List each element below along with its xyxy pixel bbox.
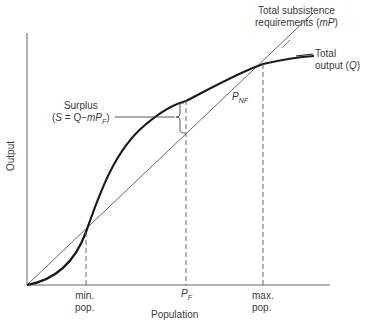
output-label: Total output (Q) — [315, 48, 360, 72]
subsistence-label-line2: requirements (mP) — [255, 17, 338, 29]
pf-label: PF — [181, 288, 192, 304]
diagram-canvas — [0, 0, 369, 328]
x-axis-label: Population — [151, 309, 198, 321]
output-label-line1: Total — [315, 48, 360, 60]
surplus-label-line2: (S = Q−mPF) — [52, 112, 110, 128]
min-pop-label-line2: pop. — [75, 302, 94, 314]
min-pop-label-line1: min. — [75, 290, 94, 302]
output-label-line2: output (Q) — [315, 60, 360, 72]
surplus-label-line1: Surplus — [52, 100, 110, 112]
subsistence-line — [27, 13, 313, 285]
min-pop-label: min. pop. — [75, 290, 94, 314]
subsistence-label: Total subsistence requirements (mP) — [255, 5, 338, 29]
surplus-brace — [176, 103, 185, 133]
pnf-label: PNF — [232, 91, 248, 107]
max-pop-label-line2: pop. — [252, 302, 274, 314]
max-pop-label-line1: max. — [252, 290, 274, 302]
max-pop-label: max. pop. — [252, 290, 274, 314]
y-axis-label: Output — [5, 141, 17, 171]
subsistence-label-line1: Total subsistence — [255, 5, 338, 17]
output-curve — [27, 56, 314, 285]
surplus-label: Surplus (S = Q−mPF) — [52, 100, 110, 128]
